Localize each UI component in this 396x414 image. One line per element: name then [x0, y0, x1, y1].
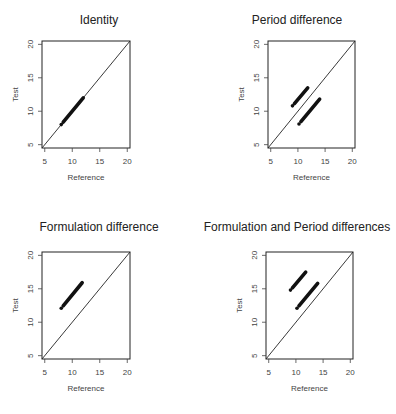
x-tick-label: 15 [319, 368, 328, 377]
y-tick-label: 10 [250, 317, 259, 326]
y-axis-label: Test [235, 297, 244, 312]
identity-line [266, 252, 353, 359]
y-tick-label: 15 [250, 284, 259, 293]
y-tick-label: 20 [250, 250, 259, 259]
x-tick-label: 10 [291, 368, 300, 377]
x-tick-label: 5 [266, 368, 271, 377]
data-points-band [292, 272, 305, 288]
y-tick-label: 5 [250, 353, 259, 358]
x-axis-label: Reference [291, 384, 328, 393]
plot-panel-4: Formulation and Period differences510152… [198, 207, 396, 414]
data-points-band [299, 283, 318, 305]
plot-area: 51015205101520ReferenceTest [0, 0, 396, 414]
x-tick-label: 20 [346, 368, 355, 377]
